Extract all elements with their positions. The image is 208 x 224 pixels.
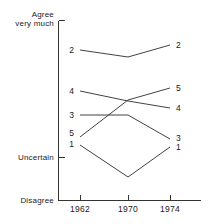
x-tick-label-1974: 1974 (160, 204, 180, 214)
series-line-5 (80, 88, 170, 137)
series-left-label-1: 1 (69, 139, 74, 149)
series-left-label-2: 2 (69, 45, 74, 55)
series-line-2 (80, 45, 170, 57)
x-tick-label-1970: 1970 (118, 204, 138, 214)
y-axis-label-disagree: Disagree (20, 196, 54, 205)
chart-canvas: Agree very much Uncertain Disagree 1962 … (0, 0, 208, 224)
series-line-1 (80, 145, 170, 177)
y-axis-label-agree-line2: very much (15, 19, 54, 28)
series-left-label-5: 5 (69, 128, 74, 138)
series-line-4 (80, 91, 170, 108)
y-axis-label-uncertain: Uncertain (18, 153, 54, 162)
y-axis-label-agree-line1: Agree (32, 10, 55, 19)
line-chart: Agree very much Uncertain Disagree 1962 … (0, 0, 208, 224)
series-left-label-4: 4 (69, 86, 74, 96)
series-right-label-1: 1 (176, 142, 181, 152)
series-right-label-5: 5 (176, 83, 181, 93)
x-tick-label-1962: 1962 (70, 204, 90, 214)
series-right-label-2: 2 (176, 40, 181, 50)
series-left-label-3: 3 (69, 110, 74, 120)
series-right-label-4: 4 (176, 103, 181, 113)
